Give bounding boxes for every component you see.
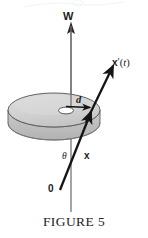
origin-label: 0 — [48, 184, 54, 194]
axis-label-w: W — [63, 11, 73, 22]
figure-5-diagram: W x′(t) d θ x 0 FIGURE 5 — [0, 0, 148, 238]
angle-label-theta: θ — [62, 152, 67, 162]
rotating-disk — [8, 93, 100, 140]
velocity-label-base: x — [112, 57, 118, 68]
figure-caption: FIGURE 5 — [0, 214, 148, 230]
radius-vector-d — [66, 107, 90, 108]
velocity-vector-label: x′(t) — [112, 58, 130, 69]
radius-label-d: d — [76, 95, 81, 106]
velocity-label-prime: ′ — [118, 56, 120, 67]
velocity-label-close-paren: ) — [126, 57, 130, 68]
position-vector-label-x: x — [84, 151, 90, 161]
figure-vector-graphic — [0, 0, 148, 238]
